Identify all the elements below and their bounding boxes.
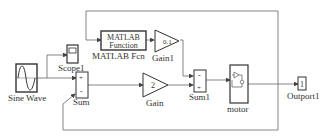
sum-plus-sign: + xyxy=(79,74,83,82)
outport-block[interactable]: 1 xyxy=(298,77,306,90)
motor-block[interactable] xyxy=(230,65,248,103)
gain-value: 2 xyxy=(151,81,155,90)
outport-label: Outport1 xyxy=(287,91,320,101)
sum1-minus-sign: - xyxy=(198,71,201,80)
block-diagram: + - MATLAB Function 0.1 2 - + 1 xyxy=(0,0,330,138)
sum1-plus-sign: + xyxy=(197,84,201,92)
sine-wave-label: Sine Wave xyxy=(8,93,46,103)
sum1-label: Sum1 xyxy=(189,92,210,102)
sum1-block[interactable]: - + xyxy=(194,70,206,92)
sine-wave-block[interactable] xyxy=(16,64,37,92)
sum-minus-sign: - xyxy=(80,87,83,96)
scope-block[interactable] xyxy=(67,45,78,63)
gain1-block[interactable]: 0.1 xyxy=(155,30,179,52)
outport-value: 1 xyxy=(300,80,304,89)
sum-label: Sum xyxy=(73,97,90,107)
gain-block[interactable]: 2 xyxy=(143,73,168,97)
sum-block[interactable]: + - xyxy=(76,72,88,98)
fcn-text-2: Function xyxy=(109,41,137,50)
motor-label: motor xyxy=(227,104,249,114)
gain1-value: 0.1 xyxy=(163,38,172,46)
scope-label: Scope1 xyxy=(58,63,85,73)
matlab-function-block[interactable]: MATLAB Function xyxy=(101,31,146,50)
gain1-label: Gain1 xyxy=(152,53,174,63)
gain-label: Gain xyxy=(146,98,164,108)
matlab-fcn-label: MATLAB Fcn xyxy=(92,51,145,61)
